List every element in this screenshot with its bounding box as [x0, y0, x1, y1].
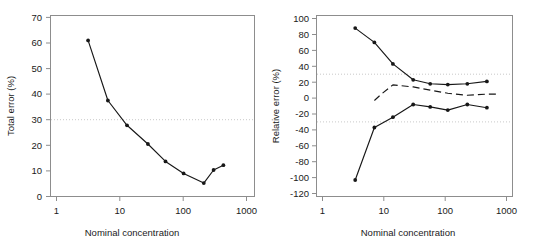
right-ytick-80: 80: [298, 29, 309, 40]
left-y-axis: [46, 16, 51, 197]
right-series-upper-limit: [355, 28, 487, 85]
left-ytick-70: 70: [31, 12, 42, 23]
left-ytick-50: 50: [31, 63, 42, 74]
right-series-lower-limit: [355, 105, 487, 181]
right-ytick-m20: -20: [295, 108, 309, 119]
left-plot-frame: [51, 16, 255, 197]
right-xtick-1: 1: [320, 205, 325, 216]
left-series-markers: [86, 39, 225, 186]
right-ytick-100: 100: [293, 13, 309, 24]
left-ytick-10: 10: [31, 165, 42, 176]
left-yaxis-title: Total error (%): [5, 76, 16, 136]
left-ytick-0: 0: [37, 191, 42, 202]
right-xtick-10: 10: [379, 205, 390, 216]
left-xaxis-title: Nominal concentration: [85, 227, 180, 238]
right-y-axis: [312, 19, 317, 194]
right-xtick-1000: 1000: [496, 205, 517, 216]
right-ytick-m80: -80: [295, 156, 309, 167]
left-ytick-20: 20: [31, 140, 42, 151]
left-chart-svg: 0 10 20 30 40 50 60 70 1 10 100 1000 Nom…: [0, 0, 268, 242]
right-ytick-m60: -60: [295, 140, 309, 151]
right-xtick-100: 100: [437, 205, 453, 216]
left-ytick-40: 40: [31, 88, 42, 99]
left-xtick-100: 100: [175, 205, 191, 216]
right-x-axis: [323, 197, 507, 202]
right-ytick-20: 20: [298, 77, 309, 88]
right-xaxis-title: Nominal concentration: [361, 227, 456, 238]
right-ytick-0: 0: [304, 92, 309, 103]
right-plot-frame: [317, 16, 513, 197]
left-xtick-10: 10: [115, 205, 126, 216]
right-yaxis-title: Relative error (%): [270, 69, 281, 143]
right-ytick-60: 60: [298, 45, 309, 56]
left-ytick-60: 60: [31, 37, 42, 48]
right-ytick-m120: -120: [290, 188, 309, 199]
right-ytick-m40: -40: [295, 124, 309, 135]
right-ytick-40: 40: [298, 61, 309, 72]
left-x-axis: [57, 197, 247, 202]
left-series-total-error: [88, 40, 223, 183]
left-xtick-1: 1: [54, 205, 59, 216]
left-ytick-30: 30: [31, 114, 42, 125]
panel-relative-error: -120 -100 -80 -60 -40 -20 0 20 40 60 80 …: [268, 0, 536, 242]
panel-total-error: 0 10 20 30 40 50 60 70 1 10 100 1000 Nom…: [0, 0, 268, 242]
right-ytick-m100: -100: [290, 172, 309, 183]
left-xtick-1000: 1000: [236, 205, 257, 216]
figure-container: 0 10 20 30 40 50 60 70 1 10 100 1000 Nom…: [0, 0, 536, 242]
right-series-mean-bias: [374, 85, 499, 101]
right-series-upper-markers: [353, 26, 489, 86]
right-series-lower-markers: [353, 103, 489, 182]
right-chart-svg: -120 -100 -80 -60 -40 -20 0 20 40 60 80 …: [268, 0, 536, 242]
